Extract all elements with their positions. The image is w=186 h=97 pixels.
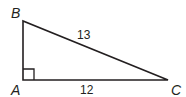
right-angle-marker [23, 69, 34, 80]
side-label-bc: 13 [77, 28, 91, 42]
triangle-abc [23, 21, 168, 80]
vertex-label-b: B [11, 5, 20, 21]
vertex-label-c: C [171, 82, 182, 97]
side-label-ac: 12 [80, 83, 94, 97]
triangle-diagram: B A C 13 12 [0, 0, 186, 97]
vertex-label-a: A [10, 82, 20, 97]
